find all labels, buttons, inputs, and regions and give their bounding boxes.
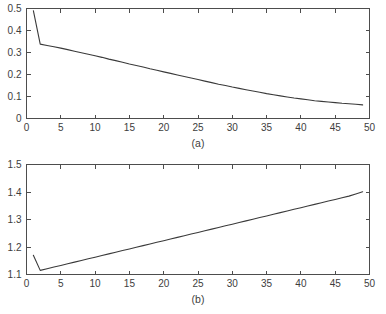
panel-caption: (b): [192, 293, 205, 305]
chart-panel-b: 051015202530354045501.11.21.31.41.5(b): [0, 156, 386, 314]
chart-svg-a: 0510152025303540455000.10.20.30.40.5(a): [0, 0, 386, 158]
x-tick-label: 30: [227, 278, 239, 289]
y-tick-label: 1.5: [8, 159, 22, 170]
x-tick-label: 10: [90, 278, 102, 289]
x-tick-label: 25: [192, 278, 204, 289]
x-tick-label: 20: [158, 122, 170, 133]
x-tick-label: 50: [364, 122, 376, 133]
x-tick-label: 25: [192, 122, 204, 133]
x-tick-label: 45: [330, 278, 342, 289]
x-tick-label: 30: [227, 122, 239, 133]
data-curve: [33, 11, 362, 105]
y-tick-label: 0: [16, 113, 22, 124]
y-tick-label: 1.1: [8, 269, 22, 280]
y-tick-label: 0.2: [8, 69, 22, 80]
data-curve: [33, 192, 362, 271]
x-tick-label: 15: [124, 122, 136, 133]
x-tick-label: 15: [124, 278, 136, 289]
y-tick-label: 1.3: [8, 214, 22, 225]
x-tick-label: 50: [364, 278, 376, 289]
y-tick-label: 0.5: [8, 3, 22, 14]
y-tick-label: 1.4: [8, 187, 22, 198]
y-tick-label: 0.3: [8, 47, 22, 58]
x-tick-label: 5: [58, 122, 64, 133]
y-tick-label: 0.1: [8, 91, 22, 102]
axes-frame: [27, 9, 370, 119]
axes-frame: [27, 165, 370, 275]
x-tick-label: 40: [295, 122, 307, 133]
x-tick-label: 35: [261, 278, 273, 289]
panel-caption: (a): [192, 137, 205, 149]
chart-svg-b: 051015202530354045501.11.21.31.41.5(b): [0, 156, 386, 314]
chart-panel-a: 0510152025303540455000.10.20.30.40.5(a): [0, 0, 386, 158]
x-tick-label: 40: [295, 278, 307, 289]
x-tick-label: 10: [90, 122, 102, 133]
x-tick-label: 0: [24, 278, 30, 289]
x-tick-label: 20: [158, 278, 170, 289]
y-tick-label: 0.4: [8, 25, 22, 36]
x-tick-label: 5: [58, 278, 64, 289]
figure-container: 0510152025303540455000.10.20.30.40.5(a) …: [0, 0, 386, 314]
x-tick-label: 45: [330, 122, 342, 133]
y-tick-label: 1.2: [8, 242, 22, 253]
x-tick-label: 35: [261, 122, 273, 133]
x-tick-label: 0: [24, 122, 30, 133]
